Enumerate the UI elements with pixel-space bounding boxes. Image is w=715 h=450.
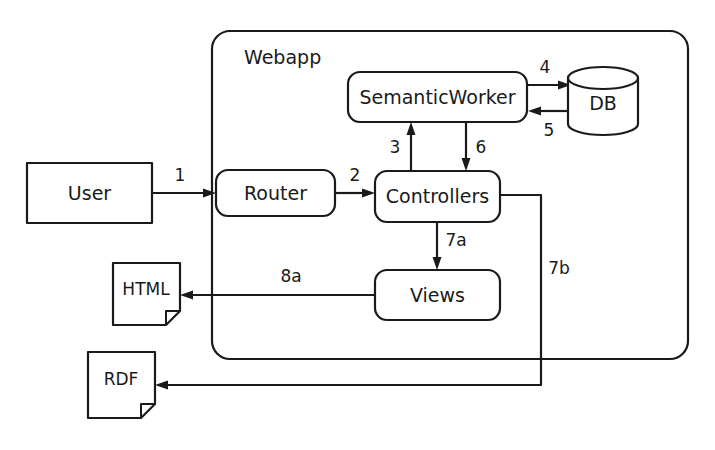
- edge-7a: 7a: [433, 222, 467, 270]
- edge-7b: 7b: [155, 195, 570, 390]
- edge-5-arrowhead: [528, 107, 541, 116]
- edge-3-label: 3: [390, 137, 401, 157]
- edge-6-arrowhead: [462, 158, 471, 171]
- edge-8a-label: 8a: [280, 266, 301, 286]
- semantic-worker-label: SemanticWorker: [359, 86, 515, 108]
- edge-5-label: 5: [544, 120, 555, 140]
- node-user: User: [27, 163, 152, 223]
- user-label: User: [68, 182, 111, 204]
- webapp-container-label: Webapp: [244, 46, 321, 68]
- node-db: DB: [568, 67, 638, 135]
- node-router: Router: [216, 170, 335, 216]
- rdf-label: RDF: [104, 369, 139, 389]
- html-label: HTML: [122, 279, 170, 299]
- edge-6-label: 6: [476, 137, 487, 157]
- edge-2: 2: [335, 165, 375, 198]
- edge-1-arrowhead: [203, 189, 216, 198]
- edge-8a: 8a: [180, 266, 375, 300]
- edge-5: 5: [528, 107, 568, 141]
- architecture-diagram: Webapp 4 5 DB SemanticWorker: [0, 0, 715, 450]
- node-views: Views: [375, 270, 500, 320]
- node-rdf: RDF: [88, 352, 155, 418]
- edge-1-label: 1: [175, 165, 186, 185]
- node-semantic-worker: SemanticWorker: [348, 72, 527, 122]
- edge-7b-arrowhead: [155, 381, 168, 390]
- edge-6: 6: [462, 122, 487, 171]
- edge-3-arrowhead: [407, 122, 416, 135]
- views-label: Views: [410, 284, 465, 306]
- edge-7b-label: 7b: [548, 258, 570, 278]
- edge-7a-label: 7a: [445, 230, 466, 250]
- edge-4: 4: [527, 57, 571, 90]
- node-html: HTML: [113, 263, 180, 325]
- db-label: DB: [589, 92, 617, 114]
- edge-7a-arrowhead: [433, 257, 442, 270]
- diagram-canvas: Webapp 4 5 DB SemanticWorker: [0, 0, 715, 450]
- edge-3: 3: [390, 122, 416, 171]
- controllers-label: Controllers: [386, 185, 489, 207]
- edge-2-arrowhead: [362, 189, 375, 198]
- edge-4-label: 4: [540, 57, 551, 77]
- node-controllers: Controllers: [375, 171, 500, 222]
- edge-2-label: 2: [350, 165, 361, 185]
- edge-1: 1: [152, 165, 216, 198]
- edge-8a-arrowhead: [180, 291, 193, 300]
- router-label: Router: [244, 182, 307, 204]
